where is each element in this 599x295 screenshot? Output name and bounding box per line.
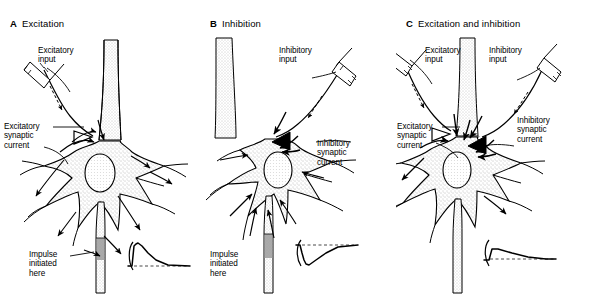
neuron-synaptic-current-figure: AExcitation (0, 0, 599, 295)
stimulating-electrode-a (24, 62, 64, 88)
label-inhibitory-current-c: Inhibitory synaptic current (517, 116, 550, 144)
label-excitatory-input-c: Excitatory input (425, 46, 460, 65)
label-excitatory-current-c: Excitatory synaptic current (397, 122, 432, 150)
label-inhibitory-input-b: Inhibitory input (279, 46, 312, 65)
presynaptic-fiber-excitatory-c (404, 62, 451, 131)
trace-a (128, 242, 190, 270)
axon-initial-segment-b (265, 234, 273, 258)
label-excitatory-current-a: Excitatory synaptic current (4, 122, 39, 150)
label-excitatory-input-a: Excitatory input (38, 46, 73, 65)
presynaptic-fiber-a (44, 70, 93, 136)
stimulating-electrode-excitatory-c (396, 50, 426, 76)
panel-excitation-and-inhibition: CExcitation and inhibition (396, 0, 599, 295)
apical-dendrite-b (215, 38, 236, 138)
excitatory-terminal-c (432, 128, 450, 141)
panel-excitation: AExcitation (0, 0, 200, 295)
axon-initial-segment-a (97, 238, 105, 260)
stimulating-electrode-inhibitory-c (537, 44, 561, 82)
nucleus-a (85, 154, 115, 192)
nucleus-c (443, 152, 471, 188)
impulse-direction-arrow-a (50, 86, 62, 110)
trace-b-waveform (296, 245, 358, 265)
trace-c-bracket (485, 240, 489, 266)
trace-c-waveform (484, 249, 556, 260)
label-impulse-initiated-b: Impulse initiated here (210, 250, 238, 278)
stimulating-electrode-b (332, 48, 356, 86)
trace-b (296, 240, 358, 266)
impulse-direction-arrow-inhibitory-c (514, 92, 528, 114)
axon-c (453, 199, 462, 293)
label-inhibitory-input-c: Inhibitory input (489, 46, 522, 65)
impulse-direction-arrow-excitatory-c (412, 84, 424, 108)
trace-a-waveform (128, 243, 190, 266)
label-inhibitory-current-b: Inhibitory synaptic current (317, 139, 350, 167)
label-impulse-initiated-a: Impulse initiated here (29, 250, 57, 278)
presynaptic-fiber-b (276, 75, 337, 137)
nucleus-b (264, 152, 292, 188)
trace-b-bracket (297, 240, 301, 266)
panel-inhibition: BInhibition (200, 0, 396, 295)
trace-c (484, 240, 556, 266)
